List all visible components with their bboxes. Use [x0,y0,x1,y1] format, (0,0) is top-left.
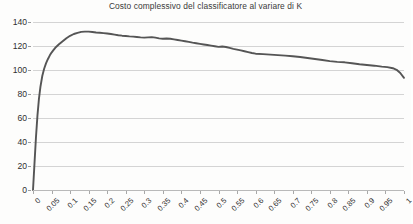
x-tick-label: 0.05 [44,196,61,213]
x-tick-mark [237,191,238,194]
y-tick-mark [28,22,31,23]
x-tick-label: 0 [33,196,42,205]
chart-title: Costo complessivo del classificatore al … [0,1,411,11]
x-tick-label: 0.8 [325,196,339,210]
y-tick-mark [28,190,31,191]
x-tick-mark [33,191,34,194]
x-tick-mark [52,191,53,194]
x-tick-mark [163,191,164,194]
x-tick-label: 0.2 [103,196,117,210]
x-tick-label: 0.45 [192,196,209,213]
y-axis: 020406080100120140 [0,22,31,190]
x-tick-mark [256,191,257,194]
x-tick-label: 0.95 [378,196,395,213]
x-tick-label: 0.55 [230,196,247,213]
y-tick-label: 140 [13,17,27,27]
x-tick-label: 0.25 [118,196,135,213]
x-tick-mark [311,191,312,194]
y-tick-label: 60 [17,113,27,123]
x-tick-label: 0.85 [341,196,358,213]
x-tick-label: 0.3 [140,196,154,210]
x-tick-mark [274,191,275,194]
x-axis: 00.050.10.150.20.250.30.350.40.450.50.55… [33,191,404,224]
x-tick-label: 0.6 [251,196,265,210]
y-tick-mark [28,118,31,119]
x-tick-label: 0.9 [362,196,376,210]
y-tick-label: 40 [17,137,27,147]
x-tick-mark [293,191,294,194]
x-tick-mark [126,191,127,194]
y-tick-label: 20 [17,161,27,171]
x-tick-mark [348,191,349,194]
y-tick-mark [28,70,31,71]
x-tick-label: 1 [404,196,413,205]
x-tick-mark [219,191,220,194]
series-svg [33,22,404,190]
x-tick-label: 0.75 [304,196,321,213]
x-tick-mark [107,191,108,194]
y-tick-label: 120 [13,41,27,51]
y-tick-label: 0 [22,185,27,195]
x-tick-label: 0.7 [288,196,302,210]
x-tick-label: 0.5 [214,196,228,210]
x-tick-mark [330,191,331,194]
x-tick-mark [404,191,405,194]
y-tick-label: 80 [17,89,27,99]
plot-area [33,22,404,190]
x-tick-mark [181,191,182,194]
x-tick-mark [89,191,90,194]
x-tick-mark [367,191,368,194]
x-tick-label: 0.4 [177,196,191,210]
x-tick-mark [144,191,145,194]
x-tick-label: 0.65 [267,196,284,213]
x-tick-mark [70,191,71,194]
y-tick-mark [28,166,31,167]
y-tick-mark [28,94,31,95]
y-tick-mark [28,142,31,143]
y-tick-mark [28,46,31,47]
x-tick-label: 0.35 [155,196,172,213]
x-tick-label: 0.15 [81,196,98,213]
x-tick-mark [385,191,386,194]
series-line-costo-complessivo [33,32,404,190]
x-tick-mark [200,191,201,194]
y-tick-label: 100 [13,65,27,75]
x-tick-label: 0.1 [66,196,80,210]
